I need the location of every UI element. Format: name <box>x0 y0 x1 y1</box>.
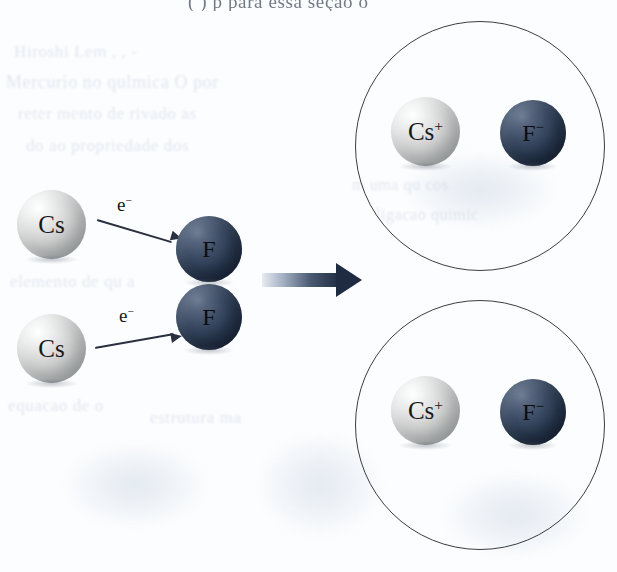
ghost-text-line: reter mento de rivado as <box>18 104 197 124</box>
f-atom-sphere-2: F <box>176 284 242 350</box>
product-circle-top: Cs+ F− <box>355 21 605 271</box>
reaction-arrow-head <box>336 263 362 297</box>
arrow-shaft <box>95 333 174 348</box>
f-anion-sphere-top: F− <box>500 100 566 166</box>
figure-canvas: ( ) p para essa seção o Hiroshi Lem , , … <box>0 0 617 572</box>
electron-label-1: e− <box>117 194 132 216</box>
ghost-text-line: Mercurio no qulmica O por <box>6 72 219 93</box>
cs-cation-sphere-top: Cs+ <box>391 97 460 166</box>
cs-atom-label-2: Cs <box>38 336 64 361</box>
f-atom-sphere-1: F <box>176 216 242 282</box>
ghost-text-line: do ao propriedade dos <box>26 136 189 156</box>
ghost-text-line: equacao de o <box>8 396 104 416</box>
cs-atom-sphere-2: Cs <box>17 314 86 383</box>
cs-atom-label-1: Cs <box>38 212 64 237</box>
reaction-arrow <box>262 262 364 298</box>
cs-atom-sphere-1: Cs <box>17 190 86 259</box>
cs-cation-label-top: Cs+ <box>408 119 443 144</box>
f-anion-label-top: F− <box>522 121 544 145</box>
f-anion-sphere-bottom: F− <box>500 379 566 445</box>
cs-cation-label-bottom: Cs+ <box>408 398 443 423</box>
top-clipped-text: ( ) p para essa seção o <box>188 0 369 11</box>
ghost-text-line: elemento de qu a <box>10 272 135 292</box>
ghost-text-line: Hiroshi Lem , , - <box>14 42 138 62</box>
f-atom-label-1: F <box>202 237 215 261</box>
f-atom-label-2: F <box>202 305 215 329</box>
clipped-top-text-row: ( ) p para essa seção o <box>0 0 617 11</box>
electron-transfer-arrow-1 <box>97 215 187 247</box>
cs-cation-sphere-bottom: Cs+ <box>391 376 460 445</box>
electron-label-2: e− <box>119 305 134 327</box>
product-circle-bottom: Cs+ F− <box>355 300 605 550</box>
ghost-smudge <box>60 440 210 530</box>
arrow-shaft <box>97 219 172 243</box>
f-anion-label-bottom: F− <box>522 400 544 424</box>
ghost-text-line: estrutura ma <box>150 408 242 428</box>
electron-transfer-arrow-2 <box>95 330 187 358</box>
reaction-arrow-shaft <box>262 273 340 287</box>
